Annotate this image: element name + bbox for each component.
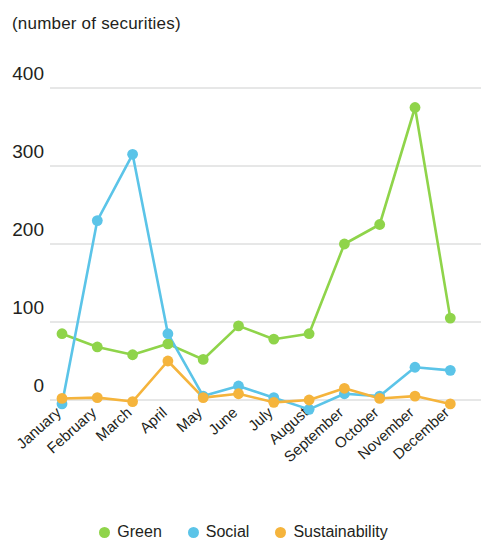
data-point-social[interactable] [410,362,421,373]
chart-container: (number of securities) 0100200300400Janu… [0,0,487,549]
data-point-social[interactable] [163,328,174,339]
y-axis-tick-label: 200 [12,219,44,240]
data-point-sustainability[interactable] [198,392,209,403]
data-point-sustainability[interactable] [339,383,350,394]
legend-item-label: Green [117,523,161,541]
legend-swatch-dot-icon [188,527,199,538]
data-point-social[interactable] [445,365,456,376]
chart-legend: GreenSocialSustainability [0,523,487,541]
legend-item[interactable]: Sustainability [275,523,387,541]
data-point-sustainability[interactable] [233,388,244,399]
data-point-green[interactable] [374,219,385,230]
x-axis-tick-label: April [136,404,170,437]
data-point-sustainability[interactable] [374,393,385,404]
y-axis-tick-label: 100 [12,297,44,318]
data-point-green[interactable] [339,239,350,250]
series-line-sustainability [62,361,450,404]
data-point-green[interactable] [57,328,68,339]
legend-item[interactable]: Green [99,523,161,541]
data-point-green[interactable] [92,342,103,353]
data-point-sustainability[interactable] [304,395,315,406]
data-point-social[interactable] [304,404,315,415]
data-point-green[interactable] [127,349,138,360]
y-axis-tick-label: 0 [33,375,44,396]
data-point-social[interactable] [127,149,138,160]
data-point-green[interactable] [233,321,244,332]
x-axis-tick-label: March [92,404,134,445]
data-point-green[interactable] [410,102,421,113]
data-point-sustainability[interactable] [92,392,103,403]
data-point-sustainability[interactable] [268,397,279,408]
data-point-sustainability[interactable] [57,393,68,404]
legend-swatch-dot-icon [99,527,110,538]
legend-item-label: Social [206,523,250,541]
legend-item[interactable]: Social [188,523,250,541]
data-point-social[interactable] [92,215,103,226]
x-axis-tick-label: May [173,403,206,435]
data-point-sustainability[interactable] [127,396,138,407]
y-axis-tick-label: 400 [12,63,44,84]
x-axis-tick-label: June [205,404,241,438]
legend-item-label: Sustainability [293,523,387,541]
data-point-green[interactable] [163,338,174,349]
data-point-green[interactable] [304,328,315,339]
series-line-social [62,154,450,409]
data-point-green[interactable] [198,354,209,365]
data-point-sustainability[interactable] [445,399,456,410]
data-point-green[interactable] [445,313,456,324]
data-point-green[interactable] [268,334,279,345]
data-point-sustainability[interactable] [163,356,174,367]
data-point-sustainability[interactable] [410,391,421,402]
line-chart-plot: 0100200300400JanuaryFebruaryMarchAprilMa… [0,0,487,500]
legend-swatch-dot-icon [275,527,286,538]
y-axis-tick-label: 300 [12,141,44,162]
